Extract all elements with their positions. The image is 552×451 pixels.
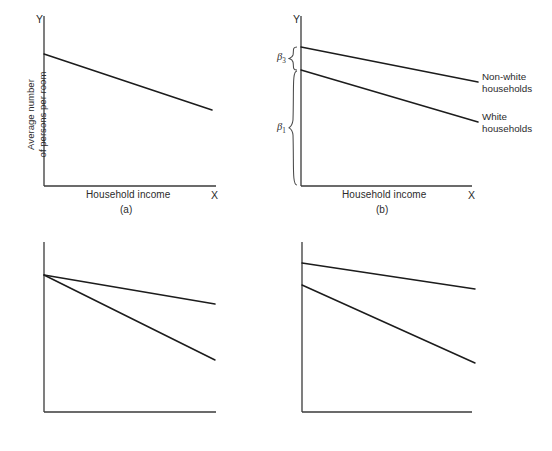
- panel-a-pooled-regression-line: [44, 54, 212, 110]
- panel-c-plot: [0, 226, 276, 451]
- panel-b-beta3-subscript: 3: [282, 57, 286, 65]
- panel-b-caption: (b): [376, 204, 388, 215]
- panel-b-nonwhite-line: [301, 47, 478, 82]
- panel-d-plot: [276, 226, 552, 451]
- panel-a-y-axis-letter: Y: [36, 14, 43, 25]
- panel-b-x-axis-title: Household income: [342, 189, 426, 200]
- panel-a-y-axis-title-line2: of persons per room: [36, 72, 47, 158]
- panel-b-beta1-label: β1: [277, 121, 286, 135]
- panel-a: Y X Average number of persons per room H…: [0, 0, 276, 226]
- panel-b-white-line: [301, 70, 478, 122]
- panel-b-beta1-subscript: 1: [282, 127, 286, 135]
- panel-c: Y X Average number of persons per room H…: [0, 226, 276, 451]
- panel-d-nonwhite-line: [302, 263, 475, 289]
- regression-dummy-variable-figure: Y X Average number of persons per room H…: [0, 0, 552, 451]
- panel-a-caption: (a): [120, 204, 132, 215]
- panel-b: Y X Household income (b) β3 β1 Non-white…: [276, 0, 552, 226]
- panel-b-nonwhite-label-line1: Non-white: [482, 71, 526, 82]
- panel-b-x-axis-letter: X: [468, 190, 475, 201]
- panel-b-beta3-brace: [289, 47, 297, 70]
- panel-c-nonwhite-line: [44, 275, 215, 304]
- panel-b-nonwhite-label-line2: households: [482, 83, 532, 94]
- panel-b-white-label-line1: White: [482, 111, 507, 122]
- panel-b-white-label: White households: [482, 111, 532, 136]
- panel-b-beta1-brace: [289, 71, 297, 185]
- panel-a-y-axis-title-line1: Average number: [25, 79, 36, 150]
- panel-d-white-line: [302, 285, 475, 363]
- panel-a-y-axis-title: Average number of persons per room: [25, 39, 48, 191]
- panel-b-beta3-label: β3: [277, 51, 286, 65]
- panel-d: Y X Household income (d) Non-white house…: [276, 226, 552, 451]
- panel-b-y-axis-letter: Y: [293, 14, 300, 25]
- panel-a-x-axis-letter: X: [211, 190, 218, 201]
- panel-c-white-line: [44, 275, 215, 360]
- panel-a-x-axis-title: Household income: [86, 189, 170, 200]
- panel-b-nonwhite-label: Non-white households: [482, 71, 532, 96]
- panel-b-white-label-line2: households: [482, 123, 532, 134]
